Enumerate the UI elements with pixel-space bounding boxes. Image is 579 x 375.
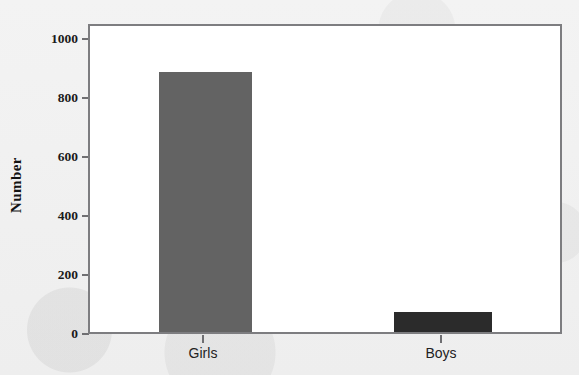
y-axis-tick-label-200: 200 [18,268,78,282]
bar-boys [394,312,492,332]
x-axis-label-boys: Boys [381,345,501,361]
x-axis-label-girls: Girls [143,345,263,361]
y-axis-tick-label-0: 0 [18,327,78,341]
y-axis-tick-label-400: 400 [18,209,78,223]
y-axis-tick-label-800: 800 [18,91,78,105]
bar-girls [159,72,252,332]
bar-chart: Number 1000 800 600 400 200 0 Girls Boys [0,0,579,375]
y-axis-title: Number [8,125,25,245]
x-axis-tick-mark-girls [202,335,204,343]
plot-area [88,24,562,334]
x-axis-tick-mark-boys [440,335,442,343]
y-axis-tick-label-600: 600 [18,150,78,164]
y-axis-tick-label-1000: 1000 [18,32,78,46]
